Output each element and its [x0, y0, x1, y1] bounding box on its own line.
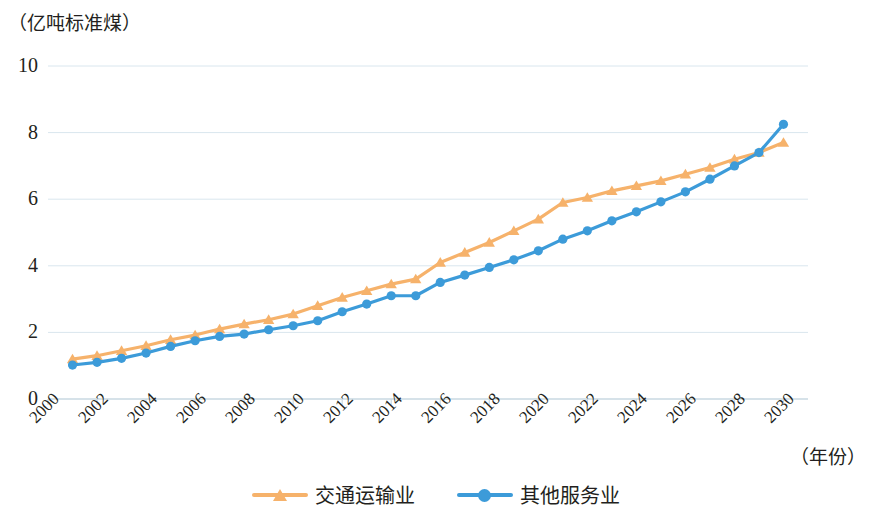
data-point-marker-circle: [387, 291, 396, 300]
data-point-marker-circle: [117, 354, 126, 363]
legend-marker-circle-icon: [478, 489, 491, 502]
data-point-marker-circle: [681, 187, 690, 196]
data-point-marker-circle: [460, 271, 469, 280]
data-point-marker-circle: [509, 255, 518, 264]
data-point-marker-circle: [166, 342, 175, 351]
data-point-marker-circle: [705, 175, 714, 184]
y-tick-label: 10: [4, 55, 38, 75]
data-point-marker-circle: [338, 307, 347, 316]
data-point-marker-circle: [754, 148, 763, 157]
legend-item[interactable]: 其他服务业: [457, 480, 620, 509]
data-point-marker-circle: [558, 235, 567, 244]
chart-container: （亿吨标准煤） 0246810 200020022004200620082010…: [0, 0, 871, 513]
data-point-marker-circle: [289, 321, 298, 330]
data-point-marker-circle: [92, 358, 101, 367]
series-line: [73, 124, 784, 365]
data-point-marker-circle: [779, 120, 788, 129]
series-line: [73, 143, 784, 359]
chart-legend: 交通运输业其他服务业: [0, 480, 871, 509]
legend-marker-triangle-icon: [273, 489, 287, 501]
data-point-marker-circle: [313, 316, 322, 325]
data-point-marker-circle: [191, 336, 200, 345]
data-point-marker-circle: [362, 299, 371, 308]
y-tick-label: 2: [4, 321, 38, 341]
data-point-marker-circle: [141, 348, 150, 357]
data-point-marker-circle: [583, 226, 592, 235]
y-tick-label: 8: [4, 122, 38, 142]
legend-swatch: [252, 486, 308, 504]
data-point-marker-circle: [68, 360, 77, 369]
data-point-marker-circle: [485, 263, 494, 272]
x-axis-title: （年份）: [790, 442, 866, 469]
legend-label: 交通运输业: [315, 480, 415, 509]
y-tick-label: 6: [4, 188, 38, 208]
data-point-marker-circle: [411, 291, 420, 300]
y-tick-label: 4: [4, 255, 38, 275]
data-point-marker-circle: [632, 207, 641, 216]
legend-label: 其他服务业: [520, 480, 620, 509]
data-point-marker-circle: [730, 161, 739, 170]
chart-plot-area: [0, 0, 871, 513]
data-point-marker-triangle: [778, 137, 789, 147]
data-point-marker-circle: [607, 216, 616, 225]
data-point-marker-circle: [264, 325, 273, 334]
data-point-marker-circle: [240, 329, 249, 338]
legend-item[interactable]: 交通运输业: [252, 480, 415, 509]
data-point-marker-circle: [215, 332, 224, 341]
data-point-marker-circle: [534, 246, 543, 255]
data-point-marker-circle: [436, 278, 445, 287]
legend-swatch: [457, 486, 513, 504]
data-point-marker-circle: [656, 197, 665, 206]
